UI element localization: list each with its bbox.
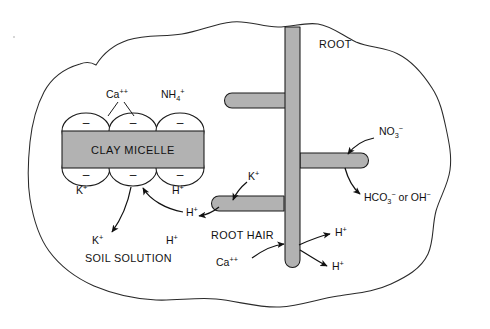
soil-root-diagram: – – – – – – CLAY MICELLE Ca++ NH4+ K+ H+	[0, 0, 490, 329]
micelle-charge-bottom-1: –	[83, 168, 90, 182]
micelle-charge-top-3: –	[177, 116, 184, 130]
root-main-stem	[285, 27, 300, 268]
soil-solution-label: SOIL SOLUTION	[85, 252, 172, 264]
root-hair-right	[300, 153, 369, 168]
root-hair-label: ROOT HAIR	[211, 229, 274, 241]
micelle-charge-top-2: –	[130, 116, 137, 130]
micelle-charge-top-1: –	[83, 116, 90, 130]
page-caption-strip	[0, 316, 490, 329]
micelle-label: CLAY MICELLE	[91, 144, 175, 156]
diagram-canvas: – – – – – – CLAY MICELLE Ca++ NH4+ K+ H+	[0, 0, 490, 329]
root-label: ROOT	[319, 38, 352, 50]
root-hair-lower-left	[212, 196, 285, 211]
scan-artifact-speck	[13, 36, 15, 38]
micelle-charge-bottom-3: –	[177, 168, 184, 182]
micelle-charge-bottom-2: –	[130, 168, 137, 182]
